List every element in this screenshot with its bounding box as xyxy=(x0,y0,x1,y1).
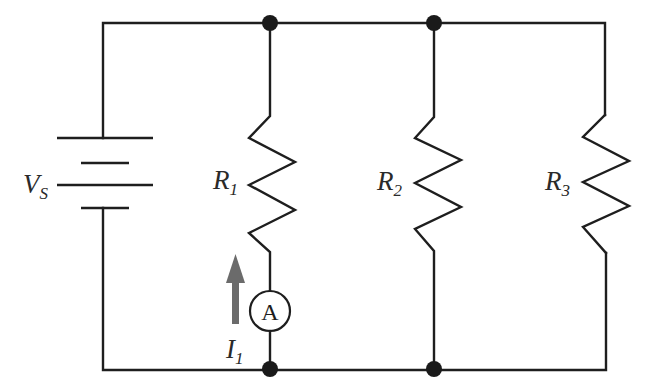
junction-node-top-1 xyxy=(262,15,278,31)
r1-label: R1 xyxy=(212,165,238,199)
current-label: I1 xyxy=(225,334,244,368)
battery-symbol xyxy=(57,138,153,208)
ammeter-icon: A xyxy=(250,291,290,331)
circuit-diagram: VS R1 A I1 R2 R3 xyxy=(0,0,656,390)
svg-text:A: A xyxy=(261,299,279,325)
r3-label: R3 xyxy=(544,166,570,200)
junction-node-top-2 xyxy=(426,15,442,31)
source-label: VS xyxy=(23,169,49,203)
r2-label: R2 xyxy=(376,166,403,200)
current-arrow-icon xyxy=(226,254,245,324)
resistor-r3 xyxy=(583,115,629,253)
resistor-r2 xyxy=(415,23,461,370)
top-rail-wire xyxy=(103,23,605,138)
resistor-r1 xyxy=(249,23,295,290)
junction-node-bottom-2 xyxy=(426,361,442,377)
junction-node-bottom-1 xyxy=(262,361,278,377)
bottom-rail-wire xyxy=(103,208,606,370)
